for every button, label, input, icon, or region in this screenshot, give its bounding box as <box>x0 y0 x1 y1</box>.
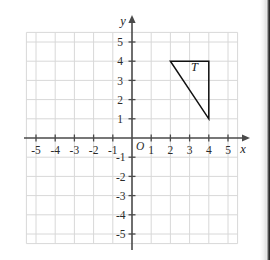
y-tick-label-4: 4 <box>117 55 123 67</box>
x-tick-label-4: 4 <box>206 144 212 156</box>
y-tick-label-3: 3 <box>117 75 123 87</box>
x-tick-label--5: -5 <box>31 144 41 156</box>
y-tick-label--3: -3 <box>116 190 126 202</box>
x-tick-label-5: 5 <box>225 144 231 156</box>
y-axis-arrow-icon <box>128 15 135 23</box>
triangle-T-label: T <box>191 60 199 74</box>
figure-page: -5 -4 -3 -2 -1 1 2 3 4 5 5 4 3 2 1 -1 -2… <box>0 0 270 260</box>
y-tick-label--1: -1 <box>116 151 126 163</box>
x-tick-label--2: -2 <box>89 144 99 156</box>
x-axis-label: x <box>239 142 246 156</box>
y-tick-label-1: 1 <box>117 113 123 125</box>
x-tick-label-1: 1 <box>148 144 154 156</box>
origin-label: O <box>136 140 145 152</box>
x-tick-label-3: 3 <box>187 144 193 156</box>
y-axis-label: y <box>118 14 126 28</box>
coordinate-plane: -5 -4 -3 -2 -1 1 2 3 4 5 5 4 3 2 1 -1 -2… <box>0 0 270 260</box>
x-tick-label--4: -4 <box>50 144 60 156</box>
y-tick-label--5: -5 <box>116 228 126 240</box>
y-tick-label--4: -4 <box>116 209 126 221</box>
y-tick-label-5: 5 <box>117 36 123 48</box>
page-edge-shadow <box>266 0 270 260</box>
y-tick-label-2: 2 <box>117 94 123 106</box>
y-tick-label--2: -2 <box>116 171 126 183</box>
axes <box>24 20 245 250</box>
x-tick-label-2: 2 <box>168 144 174 156</box>
x-tick-label--3: -3 <box>70 144 80 156</box>
x-axis-arrow-icon <box>242 134 250 141</box>
